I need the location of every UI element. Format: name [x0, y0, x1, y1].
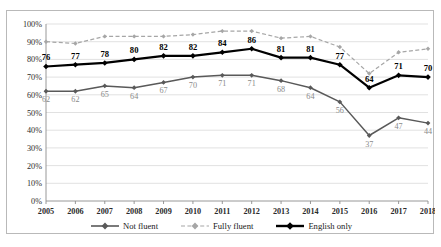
data-point-marker [43, 64, 49, 70]
chart-frame: 0%10%20%30%40%50%60%70%80%90%100% 200520… [6, 10, 434, 234]
data-point-marker [191, 75, 196, 80]
y-axis-tick: 0% [31, 197, 42, 206]
legend-swatch-fully-fluent [180, 221, 210, 231]
y-axis-tick: 20% [27, 162, 42, 171]
x-axis-tick: 2006 [67, 207, 83, 216]
legend-swatch-english-only [275, 221, 305, 231]
x-axis-tick: 2005 [38, 207, 54, 216]
data-label: 65 [101, 90, 109, 99]
data-label: 64 [130, 92, 138, 101]
data-label: 71 [394, 61, 403, 71]
data-label: 80 [130, 45, 139, 55]
data-label: 62 [42, 95, 50, 104]
legend-item-english-only[interactable]: English only [275, 221, 352, 231]
data-label: 56 [336, 106, 344, 115]
legend-label-not-fluent: Not fluent [123, 221, 158, 231]
data-point-marker [338, 45, 342, 49]
data-point-marker [191, 32, 195, 36]
y-axis-tick: 40% [27, 126, 42, 135]
data-label: 71 [248, 79, 256, 88]
data-label: 76 [42, 52, 51, 62]
data-point-marker [279, 36, 283, 40]
chart-legend: Not fluent Fully fluent English only [7, 217, 435, 235]
x-axis-tick: 2010 [185, 207, 201, 216]
data-label: 77 [71, 51, 80, 61]
data-label: 64 [365, 74, 374, 84]
data-point-marker [44, 40, 48, 44]
data-point-marker [44, 89, 49, 94]
data-label: 71 [218, 79, 226, 88]
data-point-marker [161, 80, 166, 85]
cropped-title-remnant [14, 0, 314, 6]
data-point-marker [132, 85, 137, 90]
x-axis-tick: 2016 [361, 207, 377, 216]
data-point-marker [220, 50, 226, 56]
data-label: 82 [159, 42, 168, 52]
y-axis-tick: 60% [27, 91, 42, 100]
data-point-marker [308, 85, 313, 90]
data-point-marker [161, 34, 165, 38]
data-point-marker [103, 34, 107, 38]
data-point-marker [73, 89, 78, 94]
data-label: 64 [306, 92, 314, 101]
legend-label-fully-fluent: Fully fluent [213, 221, 253, 231]
data-point-marker [249, 29, 253, 33]
y-axis-tick: 80% [27, 55, 42, 64]
data-point-marker [131, 57, 137, 63]
y-axis-tick-labels: 0%10%20%30%40%50%60%70%80%90%100% [23, 20, 42, 206]
data-point-marker [249, 46, 255, 52]
data-label: 81 [277, 44, 286, 54]
x-axis-tick: 2011 [214, 207, 230, 216]
data-point-marker [132, 34, 136, 38]
y-axis-tick: 70% [27, 73, 42, 82]
y-axis-tick: 100% [23, 20, 42, 29]
data-label: 62 [71, 95, 79, 104]
data-point-marker [161, 53, 167, 59]
data-point-marker [308, 34, 312, 38]
data-label: 37 [365, 140, 373, 149]
data-label: 47 [395, 122, 403, 131]
data-label: 44 [424, 127, 432, 136]
x-axis-tick: 2009 [155, 207, 171, 216]
x-axis-tick-labels: 2005200620072008200920102011201220132014… [38, 207, 435, 216]
data-label: 70 [424, 63, 433, 73]
data-point-marker [426, 121, 431, 126]
plot-area: 0%10%20%30%40%50%60%70%80%90%100% 200520… [7, 11, 435, 235]
data-point-marker [279, 78, 284, 83]
legend-swatch-not-fluent [90, 221, 120, 231]
data-label: 77 [336, 51, 345, 61]
legend-item-fully-fluent[interactable]: Fully fluent [180, 221, 253, 231]
x-axis-tick: 2007 [97, 207, 113, 216]
data-label: 84 [218, 38, 227, 48]
data-point-marker [220, 29, 224, 33]
data-label: 67 [159, 86, 167, 95]
x-axis-tick: 2015 [332, 207, 348, 216]
data-point-marker [102, 84, 107, 89]
x-axis-tick: 2017 [390, 207, 406, 216]
data-label: 68 [277, 85, 285, 94]
x-axis-tick: 2014 [302, 207, 318, 216]
x-axis-tick: 2012 [244, 207, 260, 216]
data-point-marker [425, 74, 431, 80]
data-labels: 6262656467707171686456374744767778808282… [42, 35, 433, 149]
data-label: 86 [247, 35, 256, 45]
x-axis-tick: 2013 [273, 207, 289, 216]
data-label: 81 [306, 44, 315, 54]
y-axis-tick: 90% [27, 38, 42, 47]
legend-item-not-fluent[interactable]: Not fluent [90, 221, 158, 231]
y-axis-tick: 10% [27, 179, 42, 188]
data-point-marker [102, 60, 108, 66]
data-point-marker [426, 47, 430, 51]
y-axis-tick: 50% [27, 109, 42, 118]
data-label: 78 [100, 49, 109, 59]
data-label: 82 [189, 42, 198, 52]
series-line-not-fluent [46, 75, 428, 135]
legend-label-english-only: English only [308, 221, 352, 231]
line-chart-svg: 0%10%20%30%40%50%60%70%80%90%100% 200520… [7, 11, 435, 235]
y-axis-tick: 30% [27, 144, 42, 153]
data-point-marker [73, 62, 79, 68]
x-axis-tick: 2018 [420, 207, 435, 216]
data-point-marker [190, 53, 196, 59]
x-axis-tick: 2008 [126, 207, 142, 216]
gridlines [46, 24, 428, 183]
